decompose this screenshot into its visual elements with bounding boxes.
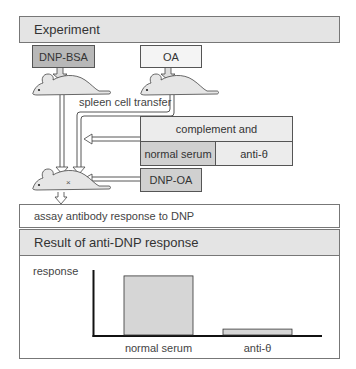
response-chart (0, 0, 356, 369)
x-tick-label: anti-θ (244, 342, 272, 354)
bar-anti-theta (223, 329, 292, 335)
bar-normal-serum (124, 276, 193, 335)
x-tick-label: normal serum (125, 342, 192, 354)
